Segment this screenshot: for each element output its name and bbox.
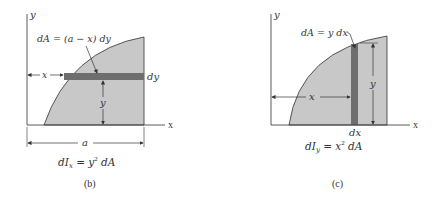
element-label-c: dA = y dx [301,27,348,38]
dx-label: dx [349,127,361,138]
y-axis-label-b: y [29,9,36,20]
x-axis-label-b: x [168,119,173,130]
region-b [44,37,144,125]
caption-b: (b) [84,178,96,190]
horizontal-strip [64,73,144,80]
y-dimension-label-c: y [369,78,376,89]
formula-b: dIx = y2 dA [58,155,116,170]
formula-c-right: dA [345,140,363,152]
x-dimension-label-c: x [309,91,315,102]
x-dimension-label-b: x [42,70,47,80]
element-label-b: dA = (a − x) dy [37,33,111,44]
diagram-canvas: y x dA = (a − x) dy dy x y a dIx = y2 dA… [0,0,436,201]
formula-c-mid: = x [320,140,341,152]
formula-b-mid: = y [73,156,95,168]
dy-label: dy [147,71,159,82]
figure-b: y x dA = (a − x) dy dy x y a dIx = y2 dA… [27,9,173,190]
figure-c: y x dA = y dx y x dx dIy = x2 dA (c) [271,9,418,190]
caption-c: (c) [332,178,343,190]
y-axis-label-c: y [273,9,280,20]
a-dimension-label: a [82,137,88,148]
x-axis-label-c: x [413,119,418,130]
y-dimension-label-b: y [99,97,106,108]
formula-b-right: dA [98,156,116,168]
formula-c: dIy = x2 dA [305,139,363,154]
vertical-strip [351,44,358,125]
